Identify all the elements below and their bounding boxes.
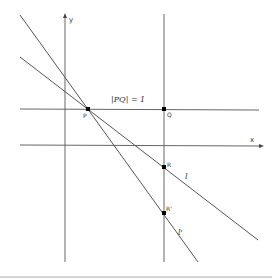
x-axis-arrow-icon [259,144,264,148]
pq-distance-annotation: |PQ| = 1 [111,95,145,104]
horizontal-line-through-pq [20,109,259,110]
line-l [20,57,258,240]
point-r [162,165,166,169]
line-l-prime-label: l' [178,228,183,237]
point-q-label: Q [167,111,172,118]
diagram-canvas: y x l l' |PQ| = 1 P Q R R' [0,0,272,279]
x-axis [20,145,260,146]
point-r-prime-label: R' [166,205,172,212]
line-l-prime [20,15,198,262]
y-axis-arrow-icon [63,13,67,18]
point-p [86,107,90,111]
bottom-divider [0,276,272,278]
point-p-label: P [83,112,87,119]
x-axis-label: x [250,136,254,144]
point-r-label: R [167,161,171,168]
y-axis-label: y [69,16,73,24]
point-q [162,107,166,111]
line-l-label: l [185,172,188,181]
